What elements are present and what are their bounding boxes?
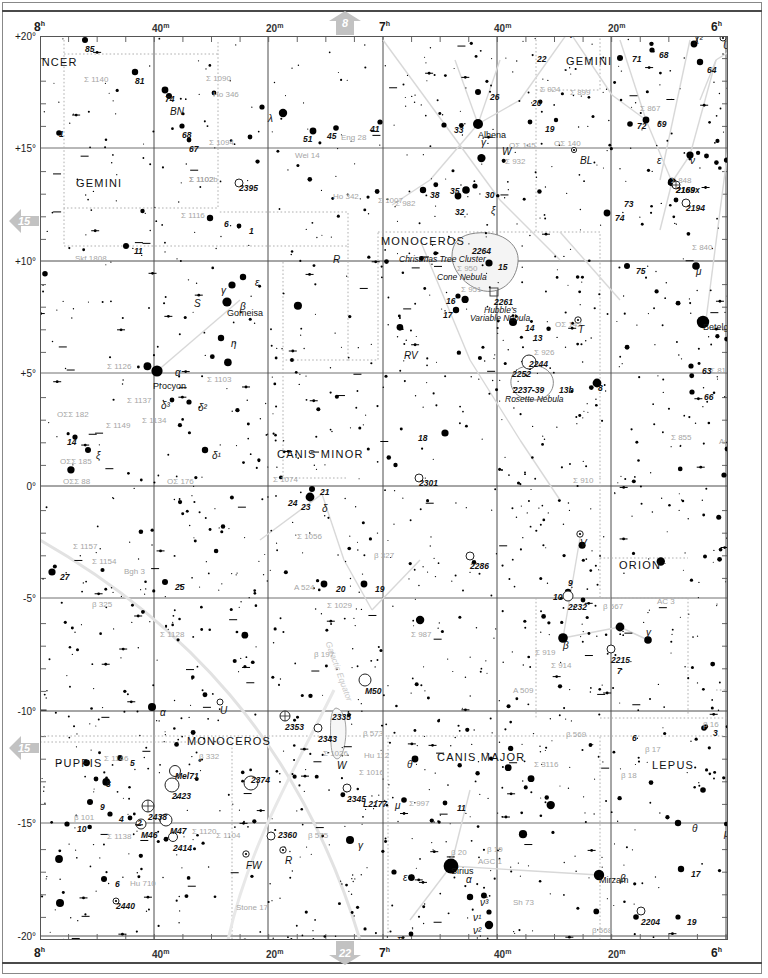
flamsteed-label-35: 13b — [559, 385, 574, 395]
dec-label-0: +20° — [2, 31, 36, 42]
ra-label-bot-5: 20m — [608, 948, 625, 960]
constellation-label-gemini-1: GEMINI — [76, 177, 122, 189]
catalog-label-39: Σ 910 — [573, 476, 594, 485]
bottom-rule — [2, 962, 762, 964]
flamsteed-label-19: 68 — [659, 50, 668, 60]
constellation-label-canis-major-8: CANIS MAJOR — [437, 751, 525, 763]
nebula-label-1: Cone Nebula — [437, 272, 487, 282]
dso-label-2232: 2232 — [568, 602, 587, 612]
catalog-label-12: Σ 951 — [461, 285, 482, 294]
flamsteed-label-43: 18 — [418, 433, 427, 443]
flamsteed-label-66: 17 — [691, 869, 700, 879]
bayer-label-43: U — [220, 705, 227, 716]
ra-label-bot-1: 40m — [152, 948, 169, 960]
page-link-left-lower[interactable]: 15 — [8, 735, 40, 761]
dec-label-2: +10° — [2, 256, 36, 267]
catalog-label-60: Σ 1104 — [216, 831, 240, 840]
dso-label-L2177: L2177 — [363, 799, 387, 809]
flamsteed-label-49: 24 — [288, 498, 297, 508]
catalog-label-16: Σ 1103 — [207, 375, 231, 384]
catalog-label-70: Σ 899 — [570, 88, 591, 97]
catalog-label-44: AC 3 — [657, 597, 675, 606]
bayer-label-8: δ¹ — [212, 450, 221, 461]
ra-label-bot-0: 8h — [34, 946, 45, 960]
catalog-label-17: Σ 1137 — [127, 396, 151, 405]
star-chart-page: 8 22 15 15 8h 40m 20m 7h 40m 20m 6h 8h 4… — [0, 0, 768, 978]
dso-label-2194: 2194 — [686, 203, 705, 213]
bayer-label-41: RV — [404, 350, 418, 361]
flamsteed-label-38: 63 — [702, 366, 711, 376]
catalog-label-25: Σ 1056 — [297, 532, 322, 541]
catalog-label-15: Σ 1126 — [107, 362, 131, 371]
catalog-label-79: Σ 982 — [395, 199, 416, 208]
page-link-down[interactable]: 22 — [328, 940, 362, 966]
catalog-label-11: Σ 950 — [457, 264, 478, 273]
flamsteed-label-17: 19 — [545, 124, 554, 134]
bayer-label-5: α — [175, 367, 181, 378]
catalog-label-7: Σ 1116 — [181, 211, 205, 220]
dso-label-Mel71: Mel71 — [175, 771, 199, 781]
catalog-label-49: Σ 3116 — [534, 760, 558, 769]
catalog-label-18: Σ 1134 — [142, 416, 166, 425]
catalog-label-10: Skf 1808 — [75, 254, 107, 263]
catalog-label-28: Bgh 3 — [124, 567, 145, 576]
bayer-label-31: θ — [692, 823, 697, 834]
catalog-label-54: Sh 73 — [513, 898, 534, 907]
catalog-label-73: OΣ 140 — [554, 139, 581, 148]
page-link-left-lower-label: 15 — [18, 742, 30, 754]
catalog-label-61: Hu 710 — [130, 879, 156, 888]
catalog-label-1: Σ 1090 — [206, 74, 231, 83]
flamsteed-label-32: 17 — [443, 310, 452, 320]
catalog-label-47: β 17 — [645, 745, 661, 754]
flamsteed-label-26: 38 — [430, 190, 439, 200]
dso-label-2360: 2360 — [278, 830, 297, 840]
flamsteed-label-36: 8 — [598, 383, 603, 393]
flamsteed-label-0: 85 — [85, 44, 94, 54]
bayer-label-2: γ — [221, 285, 226, 296]
dso-label-2414: 2414 — [173, 843, 192, 853]
flamsteed-label-27: 35 — [450, 186, 459, 196]
constellation-label-monoceros-6: MONOCEROS — [187, 735, 271, 747]
flamsteed-label-65: 11 — [457, 803, 466, 813]
catalog-label-71: OΣΣ 72 — [524, 36, 551, 38]
flamsteed-label-62: 4 — [119, 814, 124, 824]
bayer-label-7: δ² — [198, 402, 207, 413]
bayer-label-44: U — [723, 40, 728, 51]
catalog-label-37: Σ 919 — [535, 648, 556, 657]
flamsteed-label-28: 30 — [485, 190, 494, 200]
dec-label-5: -5° — [2, 593, 36, 604]
ra-label-bot-3: 7h — [379, 946, 390, 960]
dec-label-3: +5° — [2, 368, 36, 379]
bayer-label-14: ν — [690, 155, 695, 166]
catalog-label-65: Σ 1016 — [359, 768, 384, 777]
catalog-label-40: Σ 855 — [671, 433, 692, 442]
flamsteed-label-23: 69 — [657, 119, 666, 129]
flamsteed-label-22: 72 — [637, 121, 646, 131]
top-rule — [2, 10, 762, 12]
flamsteed-label-34: 13 — [533, 333, 542, 343]
catalog-label-19: Σ 1149 — [106, 421, 130, 430]
bayer-label-4: η — [231, 338, 237, 349]
bayer-label-25: ε — [403, 872, 407, 883]
catalog-label-34: Σ 1029 — [327, 601, 352, 610]
catalog-label-0: Σ 1140 — [84, 75, 108, 84]
catalog-label-20: OΣΣ 182 — [57, 410, 89, 419]
bayer-label-3: β — [240, 301, 246, 312]
catalog-label-13: Σ 926 — [534, 348, 555, 357]
dec-label-7: -15° — [2, 818, 36, 829]
star-name-betelgeuse: Betelgeuse — [703, 322, 728, 332]
dso-label-2252: 2252 — [512, 369, 531, 379]
page-link-up[interactable]: 8 — [328, 10, 362, 36]
page-link-left-upper[interactable]: 15 — [8, 208, 40, 234]
bayer-label-6: δ³ — [161, 400, 170, 411]
catalog-label-24: Σ 1074 — [273, 475, 298, 484]
bayer-label-15: μ — [696, 266, 701, 277]
flamsteed-label-30: 15 — [498, 262, 507, 272]
bayer-label-39: BL — [580, 155, 592, 166]
catalog-label-69: Σ 924 — [540, 85, 561, 94]
constellation-label-gemini-2: GEMINI — [566, 55, 612, 67]
catalog-label-27: Σ 1154 — [92, 557, 116, 566]
flamsteed-label-25: 74 — [615, 213, 624, 223]
ra-label-top-1: 40m — [152, 22, 169, 34]
dso-label-2204: 2204 — [641, 917, 660, 927]
